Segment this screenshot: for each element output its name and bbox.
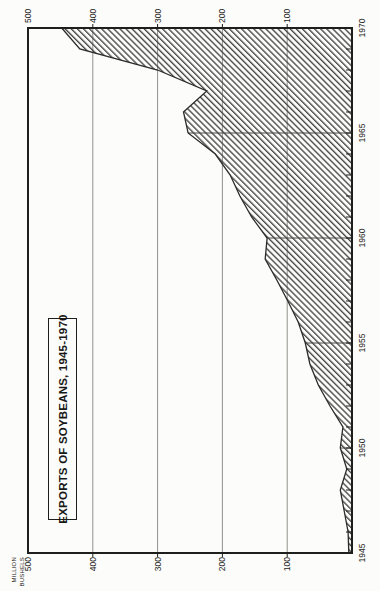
x-axis-label-1965: 1965 (357, 123, 367, 142)
y-axis-label-left-400: 400 (88, 557, 98, 571)
y-axis-caption-line2: BUSHELS (19, 557, 25, 586)
y-axis-label-right-300: 300 (153, 9, 163, 23)
x-axis-label-1970: 1970 (357, 18, 367, 37)
y-axis-caption-line1: MILLION (11, 557, 17, 582)
y-axis-label-right-100: 100 (282, 9, 292, 23)
x-axis-label-1960: 1960 (357, 228, 367, 247)
y-axis-label-left-300: 300 (153, 557, 163, 571)
y-axis-label-left-200: 200 (217, 557, 227, 571)
scanned-page: 500400300200100MILLIONBUSHELS50040030020… (0, 0, 380, 591)
y-axis-label-left-500: 500 (23, 557, 33, 571)
y-axis-label-right-200: 200 (217, 9, 227, 23)
x-axis-label-1945: 1945 (357, 543, 367, 562)
y-axis-label-right-400: 400 (88, 9, 98, 23)
x-axis-label-1955: 1955 (357, 333, 367, 352)
rotated-chart: 500400300200100MILLIONBUSHELS50040030020… (0, 0, 380, 591)
chart-title: EXPORTS OF SOYBEANS, 1945-1970 (57, 314, 69, 523)
y-axis-label-left-100: 100 (282, 557, 292, 571)
x-axis-label-1950: 1950 (357, 438, 367, 457)
chart-title-box: EXPORTS OF SOYBEANS, 1945-1970 (48, 318, 77, 520)
y-axis-label-right-500: 500 (23, 9, 33, 23)
